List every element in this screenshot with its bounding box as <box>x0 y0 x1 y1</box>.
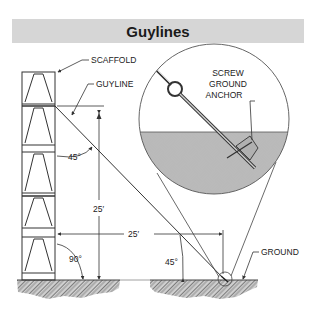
scaffold <box>22 72 55 280</box>
label-anchor: ANCHOR <box>206 90 243 100</box>
label-guyline: GUYLINE <box>96 79 134 89</box>
ground-left <box>17 280 120 299</box>
angle-label-guyline-ground: 45° <box>165 257 178 267</box>
leader-scaffold <box>58 60 89 72</box>
label-screw: SCREW <box>212 68 244 78</box>
angle-label-scaffold-guyline: 45° <box>68 152 81 162</box>
label-ground-word: GROUND <box>209 79 247 89</box>
dimension-label-vertical: 25′ <box>93 204 104 214</box>
leader-ground <box>243 252 259 279</box>
guyline-diagram: SCAFFOLD GUYLINE SCREW GROUND ANCHOR GRO… <box>0 0 318 318</box>
dimension-label-horizontal: 25′ <box>128 229 139 239</box>
label-scaffold: SCAFFOLD <box>91 55 136 65</box>
angle-arc-45-bottom <box>180 235 183 279</box>
angle-label-90: 90° <box>69 254 82 264</box>
label-ground: GROUND <box>261 247 299 257</box>
ground-right <box>150 280 258 299</box>
leader-guyline <box>72 84 94 115</box>
